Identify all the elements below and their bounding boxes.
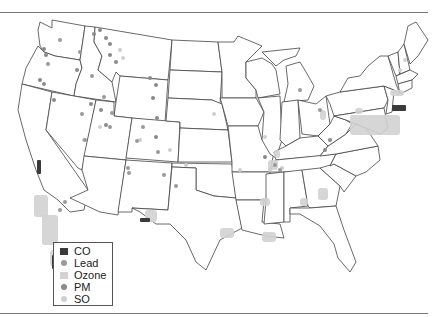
so-point — [212, 112, 216, 116]
ozone-area — [350, 115, 400, 135]
so-point — [238, 168, 242, 172]
state-colorado — [126, 118, 180, 162]
ozone-area — [220, 228, 234, 238]
legend-label: Lead — [74, 257, 98, 269]
so-point — [168, 148, 172, 152]
lead-point — [162, 173, 166, 177]
lead-point — [318, 108, 322, 112]
state-maine — [404, 22, 428, 64]
legend-label: CO — [74, 245, 91, 257]
lead-point — [108, 125, 112, 129]
pm-swatch-icon — [61, 284, 67, 290]
legend-item-co: CO — [60, 245, 112, 257]
so-point — [118, 48, 122, 52]
lead-point — [46, 62, 50, 66]
pm-point — [52, 98, 56, 102]
lead-swatch-icon — [61, 260, 67, 266]
ozone-area — [355, 108, 363, 114]
pm-point — [151, 96, 155, 100]
lead-point — [90, 74, 94, 78]
co-swatch-icon — [60, 248, 68, 255]
ozone-area — [262, 232, 276, 242]
co-area — [37, 160, 41, 174]
ozone-area — [390, 90, 404, 96]
pm-point — [104, 123, 108, 127]
legend-label: PM — [74, 281, 91, 293]
co-area — [392, 105, 406, 111]
pm-point — [108, 42, 112, 46]
lead-point — [58, 38, 62, 42]
legend-label: Ozone — [74, 269, 106, 281]
pm-point — [98, 28, 102, 32]
legend-label: SO — [74, 293, 90, 305]
pm-point — [92, 32, 96, 36]
legend-item-ozone: Ozone — [60, 269, 112, 281]
map-legend: COLeadOzonePMSO — [53, 242, 113, 306]
pm-point — [328, 138, 332, 142]
legend-item-lead: Lead — [60, 257, 112, 269]
lead-point — [135, 139, 139, 143]
lead-point — [83, 138, 87, 142]
lead-point — [80, 112, 84, 116]
pm-point — [154, 83, 158, 87]
ozone-area — [34, 195, 48, 217]
pm-point — [38, 78, 42, 82]
co-area — [140, 218, 150, 222]
lead-point — [63, 200, 67, 204]
pm-point — [44, 53, 48, 57]
pm-point — [104, 36, 108, 40]
so-point — [263, 135, 267, 139]
lead-point — [298, 88, 302, 92]
pm-point — [263, 155, 267, 159]
lead-point — [58, 208, 62, 212]
lead-point — [156, 150, 160, 154]
lead-point — [126, 166, 130, 170]
state-florida — [290, 206, 356, 272]
pm-point — [42, 82, 46, 86]
lead-point — [141, 125, 145, 129]
pm-point — [89, 102, 93, 106]
lead-point — [127, 171, 131, 175]
state-north-dakota — [170, 40, 222, 72]
pm-point — [323, 148, 327, 152]
ozone-area — [42, 215, 58, 245]
so-point — [98, 125, 102, 129]
ozone-area — [300, 198, 308, 206]
lead-point — [273, 163, 277, 167]
so-point — [268, 168, 272, 172]
state-montana — [94, 27, 172, 82]
bottom-rule — [0, 313, 428, 314]
lead-point — [278, 168, 282, 172]
so-point — [121, 56, 125, 60]
legend-item-pm: PM — [60, 281, 112, 293]
pm-point — [75, 68, 79, 72]
state-wyoming — [114, 76, 168, 122]
so-point — [403, 58, 407, 62]
legend-item-so: SO — [60, 293, 112, 305]
so-swatch-icon — [61, 296, 67, 302]
lead-point — [78, 50, 82, 54]
pm-point — [148, 76, 152, 80]
pm-point — [108, 53, 112, 57]
pm-point — [154, 135, 158, 139]
ozone-area — [260, 198, 270, 206]
state-indiana — [280, 100, 300, 146]
ozone-area — [318, 188, 328, 200]
pm-point — [114, 60, 118, 64]
so-point — [398, 68, 402, 72]
state-arkansas — [232, 172, 270, 200]
lead-point — [110, 111, 114, 115]
lead-point — [102, 95, 106, 99]
state-iowa — [220, 98, 264, 126]
pm-point — [99, 108, 103, 112]
lead-point — [174, 184, 178, 188]
ozone-area — [274, 150, 280, 158]
pm-point — [42, 47, 46, 51]
ozone-swatch-icon — [60, 272, 68, 279]
state-kansas — [178, 128, 232, 162]
pm-point — [155, 116, 159, 120]
so-point — [184, 163, 188, 167]
